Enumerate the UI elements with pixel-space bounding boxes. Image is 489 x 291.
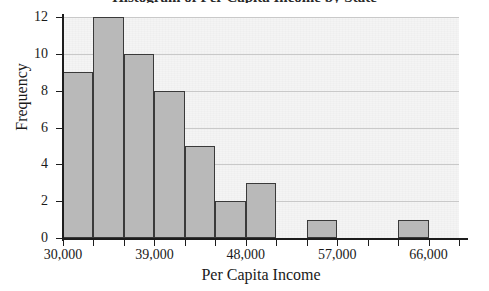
chart-title-cropped: Histogram of Per Capita Income by State	[0, 0, 489, 3]
histogram-bar	[215, 201, 245, 238]
x-axis-tick	[368, 240, 369, 246]
y-axis-tick-label: 4	[8, 157, 48, 171]
x-axis-tick-label: 48,000	[201, 247, 291, 263]
x-axis-tick	[429, 240, 430, 246]
plot-area	[63, 17, 459, 238]
y-axis-tick	[56, 128, 63, 129]
histogram-figure: Histogram of Per Capita Income by State …	[0, 0, 489, 291]
x-axis-tick	[93, 240, 94, 246]
y-axis-tick	[56, 17, 63, 18]
histogram-bar	[246, 183, 276, 238]
x-axis-tick	[185, 240, 186, 246]
x-axis-tick	[398, 240, 399, 246]
x-axis-tick-label: 57,000	[292, 247, 382, 263]
x-axis-tick	[63, 240, 64, 246]
x-axis-tick-label: 66,000	[384, 247, 474, 263]
y-axis-tick	[56, 201, 63, 202]
y-axis-tick	[56, 164, 63, 165]
y-axis-tick	[56, 238, 63, 239]
x-axis-tick	[246, 240, 247, 246]
x-axis-tick	[337, 240, 338, 246]
histogram-bar	[63, 72, 93, 238]
histogram-bar	[398, 220, 428, 238]
x-axis-tick	[276, 240, 277, 246]
histogram-bar	[124, 54, 154, 238]
x-axis-tick	[459, 240, 460, 246]
y-axis-tick	[56, 91, 63, 92]
y-axis-title: Frequency	[13, 37, 31, 157]
x-axis-title: Per Capita Income	[63, 266, 459, 284]
y-axis-tick-label: 12	[8, 10, 48, 24]
y-axis-tick-label: 2	[8, 194, 48, 208]
x-axis-tick	[215, 240, 216, 246]
x-axis-tick-label: 39,000	[109, 247, 199, 263]
chart-title-text: Histogram of Per Capita Income by State	[0, 0, 489, 3]
histogram-bar	[154, 91, 184, 238]
y-axis-tick	[56, 54, 63, 55]
x-axis-tick	[154, 240, 155, 246]
histogram-bar	[185, 146, 215, 238]
x-axis-tick-label: 30,000	[18, 247, 108, 263]
histogram-bar	[93, 17, 123, 238]
y-axis-tick-label: 0	[8, 231, 48, 245]
x-axis-tick	[307, 240, 308, 246]
x-axis-tick	[124, 240, 125, 246]
histogram-bar	[307, 220, 337, 238]
x-axis-line	[62, 238, 468, 240]
